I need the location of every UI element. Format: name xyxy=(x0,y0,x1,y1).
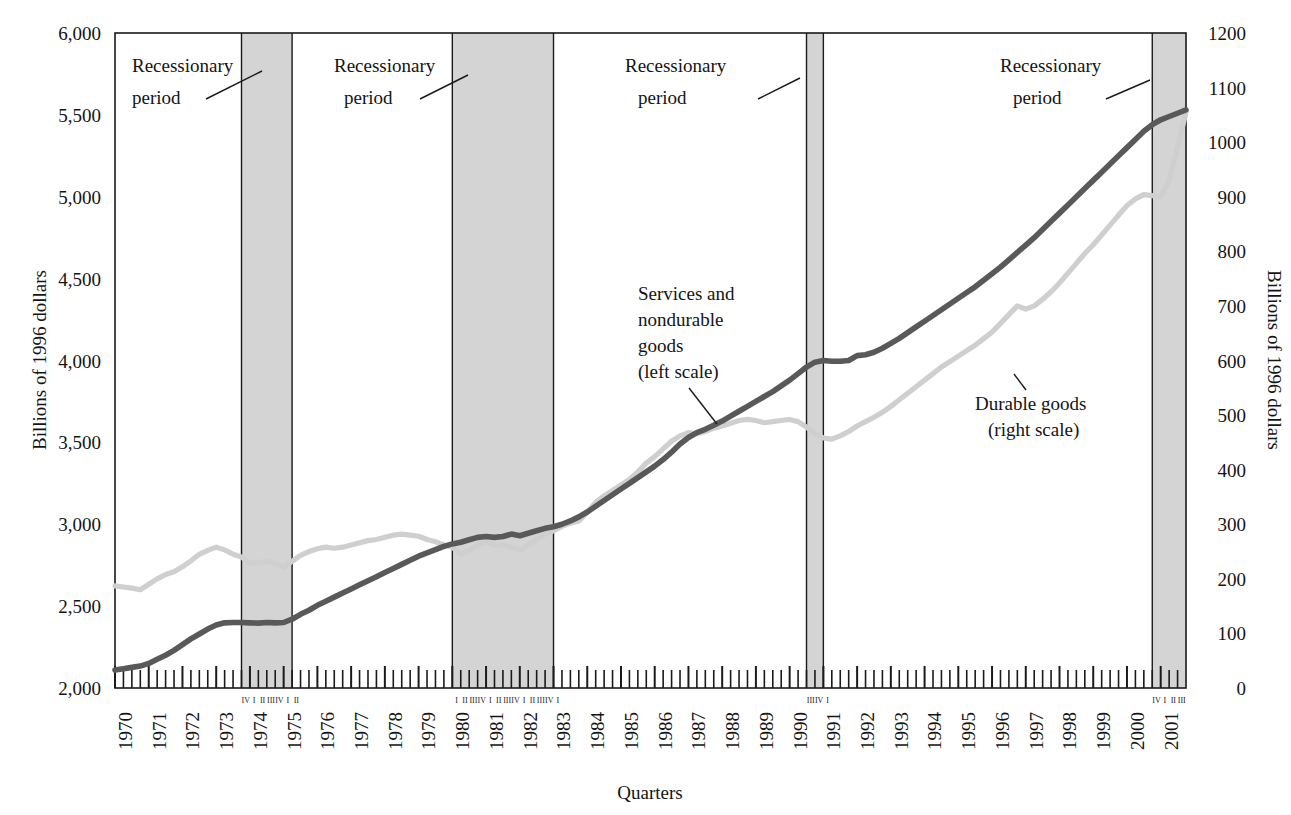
quarter-label: II xyxy=(530,696,536,705)
annotation-rec4-line1: Recessionary xyxy=(1000,55,1102,76)
quarter-label: IV xyxy=(511,696,520,705)
y-right-tick-label: 600 xyxy=(1218,351,1247,372)
quarter-label: I xyxy=(253,696,256,705)
x-year-label: 1982 xyxy=(520,712,541,750)
y-right-tick-label: 100 xyxy=(1218,623,1247,644)
quarter-label: IV xyxy=(545,696,554,705)
quarter-label: III xyxy=(537,696,545,705)
quarter-label: I xyxy=(455,696,458,705)
quarter-label: II xyxy=(1171,696,1177,705)
annotation-rec3-line1: Recessionary xyxy=(625,55,727,76)
series-label-services-line2: nondurable xyxy=(638,309,723,330)
y-right-tick-label: 200 xyxy=(1218,569,1247,590)
y-right-tick-label: 0 xyxy=(1237,678,1247,699)
x-year-label: 1979 xyxy=(418,712,439,750)
quarter-label: I xyxy=(287,696,290,705)
y-left-tick-label: 2,500 xyxy=(58,596,101,617)
y-left-tick-label: 5,500 xyxy=(58,105,101,126)
x-year-label: 1998 xyxy=(1059,712,1080,750)
y-left-tick-label: 2,000 xyxy=(58,678,101,699)
annotation-rec1-line2: period xyxy=(132,87,181,108)
quarter-label: I xyxy=(826,696,829,705)
x-year-label: 1997 xyxy=(1026,712,1047,750)
y-right-tick-label: 1100 xyxy=(1209,78,1246,99)
x-year-label: 1996 xyxy=(992,712,1013,750)
recession-band-1 xyxy=(241,33,292,688)
series-label-services-line1: Services and xyxy=(638,283,735,304)
x-year-label: 1973 xyxy=(216,712,237,750)
y-left-tick-label: 5,000 xyxy=(58,187,101,208)
x-year-label: 1989 xyxy=(756,712,777,750)
x-year-label: 1974 xyxy=(250,712,271,751)
x-year-label: 1978 xyxy=(385,712,406,750)
quarter-label: I xyxy=(523,696,526,705)
x-axis-title: Quarters xyxy=(617,782,682,803)
x-year-label: 1994 xyxy=(924,712,945,751)
x-year-label: 1988 xyxy=(722,712,743,750)
y-left-tick-label: 4,000 xyxy=(58,351,101,372)
x-year-label: 1985 xyxy=(621,712,642,750)
quarter-label: II xyxy=(496,696,502,705)
chart-figure: 2,0002,5003,0003,5004,0004,5005,0005,500… xyxy=(0,0,1291,815)
quarter-label: II xyxy=(294,696,300,705)
y-axis-left-title: Billions of 1996 dollars xyxy=(29,270,50,450)
x-year-label: 1975 xyxy=(284,712,305,750)
y-axis-left-labels: 2,0002,5003,0003,5004,0004,5005,0005,500… xyxy=(58,23,101,699)
y-right-tick-label: 900 xyxy=(1218,187,1247,208)
quarter-label: III xyxy=(469,696,477,705)
x-year-label: 1993 xyxy=(891,712,912,750)
x-year-label: 1972 xyxy=(182,712,203,750)
quarter-label: III xyxy=(1178,696,1186,705)
y-left-tick-label: 4,500 xyxy=(58,269,101,290)
x-year-label: 1992 xyxy=(857,712,878,750)
y-axis-right-title: Billions of 1996 dollars xyxy=(1264,270,1285,450)
quarter-label: II xyxy=(260,696,266,705)
x-year-label: 1977 xyxy=(351,712,372,750)
annotation-rec2-line2: period xyxy=(344,87,393,108)
x-year-label: 1999 xyxy=(1093,712,1114,750)
annotation-rec4-line2: period xyxy=(1013,87,1062,108)
y-right-tick-label: 1000 xyxy=(1208,132,1246,153)
annotation-rec2-line1: Recessionary xyxy=(334,55,436,76)
series-label-services-line3: goods xyxy=(638,335,683,356)
x-year-label: 1970 xyxy=(115,712,136,750)
x-year-label: 1983 xyxy=(553,712,574,750)
quarter-label: IV xyxy=(478,696,487,705)
y-right-tick-label: 300 xyxy=(1218,514,1247,535)
annotation-rec3-line2: period xyxy=(638,87,687,108)
consumption-expenditures-chart: 2,0002,5003,0003,5004,0004,5005,0005,500… xyxy=(0,0,1291,815)
x-year-label: 1976 xyxy=(317,712,338,750)
x-year-label: 2001 xyxy=(1161,712,1182,750)
y-right-tick-label: 1200 xyxy=(1208,23,1246,44)
quarter-label: III xyxy=(807,696,815,705)
x-year-label: 1995 xyxy=(958,712,979,750)
y-left-tick-label: 6,000 xyxy=(58,23,101,44)
y-right-tick-label: 400 xyxy=(1218,460,1247,481)
chart-background xyxy=(0,0,1291,815)
series-label-durables-line2: (right scale) xyxy=(988,419,1079,441)
quarter-label: IV xyxy=(241,696,250,705)
recession-band-2 xyxy=(452,33,553,688)
quarter-label: II xyxy=(462,696,468,705)
x-year-label: 1991 xyxy=(823,712,844,750)
quarter-label: I xyxy=(1164,696,1167,705)
series-label-durables-line1: Durable goods xyxy=(975,393,1086,414)
x-year-label: 1987 xyxy=(688,712,709,750)
x-year-label: 1981 xyxy=(486,712,507,750)
x-year-label: 1984 xyxy=(587,712,608,751)
x-year-label: 1971 xyxy=(149,712,170,750)
x-year-label: 1986 xyxy=(655,712,676,750)
y-right-tick-label: 700 xyxy=(1218,296,1247,317)
y-left-tick-label: 3,000 xyxy=(58,514,101,535)
annotation-rec1-line1: Recessionary xyxy=(132,55,234,76)
quarter-label: III xyxy=(503,696,511,705)
x-year-label: 1980 xyxy=(452,712,473,750)
quarter-label: I xyxy=(556,696,559,705)
y-right-tick-label: 500 xyxy=(1218,405,1247,426)
quarter-label: IV xyxy=(815,696,824,705)
quarter-label: IV xyxy=(1152,696,1161,705)
series-label-services-line4: (left scale) xyxy=(638,361,719,383)
quarter-label: III xyxy=(267,696,275,705)
y-left-tick-label: 3,500 xyxy=(58,432,101,453)
y-right-tick-label: 800 xyxy=(1218,241,1247,262)
